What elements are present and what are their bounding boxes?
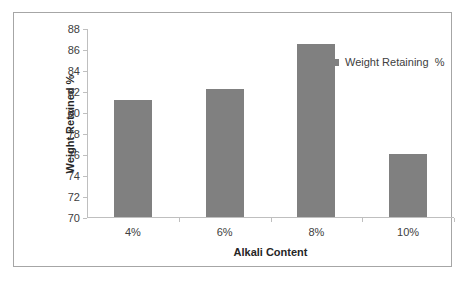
legend-swatch-icon [332,59,339,66]
y-axis-tick [83,176,87,177]
x-axis-title: Alkali Content [87,246,454,258]
y-axis-tick [83,218,87,219]
y-axis-tick [83,92,87,93]
y-axis-tick [83,50,87,51]
y-axis-title-container: Weight Retained % [36,29,50,218]
y-axis-tick-label: 84 [68,65,80,77]
x-axis-tick [362,218,363,222]
x-axis-tick [454,218,455,222]
legend: Weight Retaining % [332,56,444,68]
y-axis-tick [83,134,87,135]
x-axis-category-label: 4% [125,226,141,238]
y-axis-tick-label: 70 [68,212,80,224]
x-axis-category-label: 6% [217,226,233,238]
y-axis-tick-label: 86 [68,44,80,56]
y-axis-tick-label: 80 [68,107,80,119]
y-axis-line [87,29,88,218]
y-axis-tick-label: 72 [68,191,80,203]
y-axis-tick [83,113,87,114]
chart-frame: Weight Retained % 70727476788082848688 4… [13,12,452,267]
y-axis-tick-label: 82 [68,86,80,98]
bar [206,89,244,217]
y-axis-tick-label: 74 [68,170,80,182]
x-axis-tick [271,218,272,222]
x-axis-tick [179,218,180,222]
bar [297,44,335,217]
y-axis-tick-label: 76 [68,149,80,161]
y-axis-tick [83,197,87,198]
y-axis-tick-label: 88 [68,23,80,35]
bar [114,100,152,217]
y-axis-tick [83,29,87,30]
x-axis-category-label: 10% [397,226,419,238]
y-axis-tick-label: 78 [68,128,80,140]
y-axis-tick [83,71,87,72]
bar [389,154,427,217]
x-axis-category-label: 8% [308,226,324,238]
y-axis-tick [83,155,87,156]
legend-label: Weight Retaining % [345,56,444,68]
